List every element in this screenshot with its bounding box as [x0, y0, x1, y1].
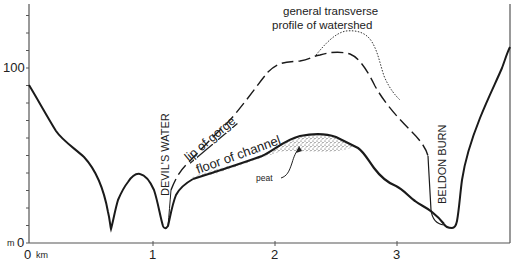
- axes-frame: [29, 4, 510, 243]
- x-label-3: 3: [393, 247, 400, 262]
- title-line-1: general transverse: [283, 5, 378, 17]
- label-beldon-burn: BELDON BURN: [436, 124, 448, 204]
- transverse-profile-diagram: 100 m 0 0 km 1 2 3 general transverse pr…: [0, 0, 516, 262]
- x-label-1: 1: [149, 247, 156, 262]
- title-line-2: profile of watershed: [272, 19, 372, 31]
- x-label-0: 0: [24, 247, 31, 262]
- beldon-burn-valley: [444, 47, 510, 228]
- x-label-2: 2: [271, 247, 278, 262]
- y-unit-m: m: [7, 238, 15, 248]
- watershed-profile-line: [316, 31, 400, 100]
- x-unit-km: km: [36, 250, 48, 260]
- label-devils-water: DEVIL'S WATER: [159, 113, 171, 196]
- y-label-100: 100: [3, 60, 25, 75]
- label-peat: peat: [256, 173, 273, 183]
